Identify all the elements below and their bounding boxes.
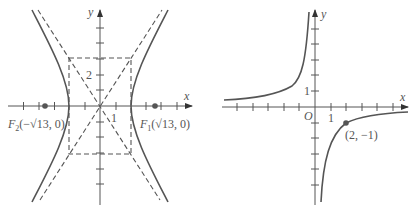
tick-label-x-1: 1 [328,111,334,125]
focus-left-label: F2(−√13, 0) [7,117,65,133]
curve-lower-right-branch [321,112,408,202]
point-2-neg1 [343,120,349,126]
y-axis-label: y [87,5,94,19]
tick-label-x-1: 1 [111,111,117,125]
hyperbola-graph: x y 1 2 F2(−√13, 0) F1(√13, 0) [7,5,192,205]
focus-point-right [152,103,158,109]
asymptote-positive [40,10,162,200]
focus-point-left [42,103,48,109]
point-label: (2, −1) [345,128,378,142]
tick-label-y-2: 2 [86,68,92,82]
focus-right-label: F1(√13, 0) [139,117,190,133]
origin-label: O [304,109,313,123]
rectangular-hyperbola-graph: x y O 1 1 (2, −1) [222,7,408,205]
tick-label-y-1: 1 [304,84,310,98]
curve-upper-left-branch [224,12,309,100]
x-axis-label: x [399,90,406,104]
figure-canvas: x y 1 2 F2(−√13, 0) F1(√13, 0) [0,0,416,213]
x-axis-label: x [183,89,190,103]
asymptote-negative [38,10,160,200]
y-axis-label: y [320,7,327,21]
